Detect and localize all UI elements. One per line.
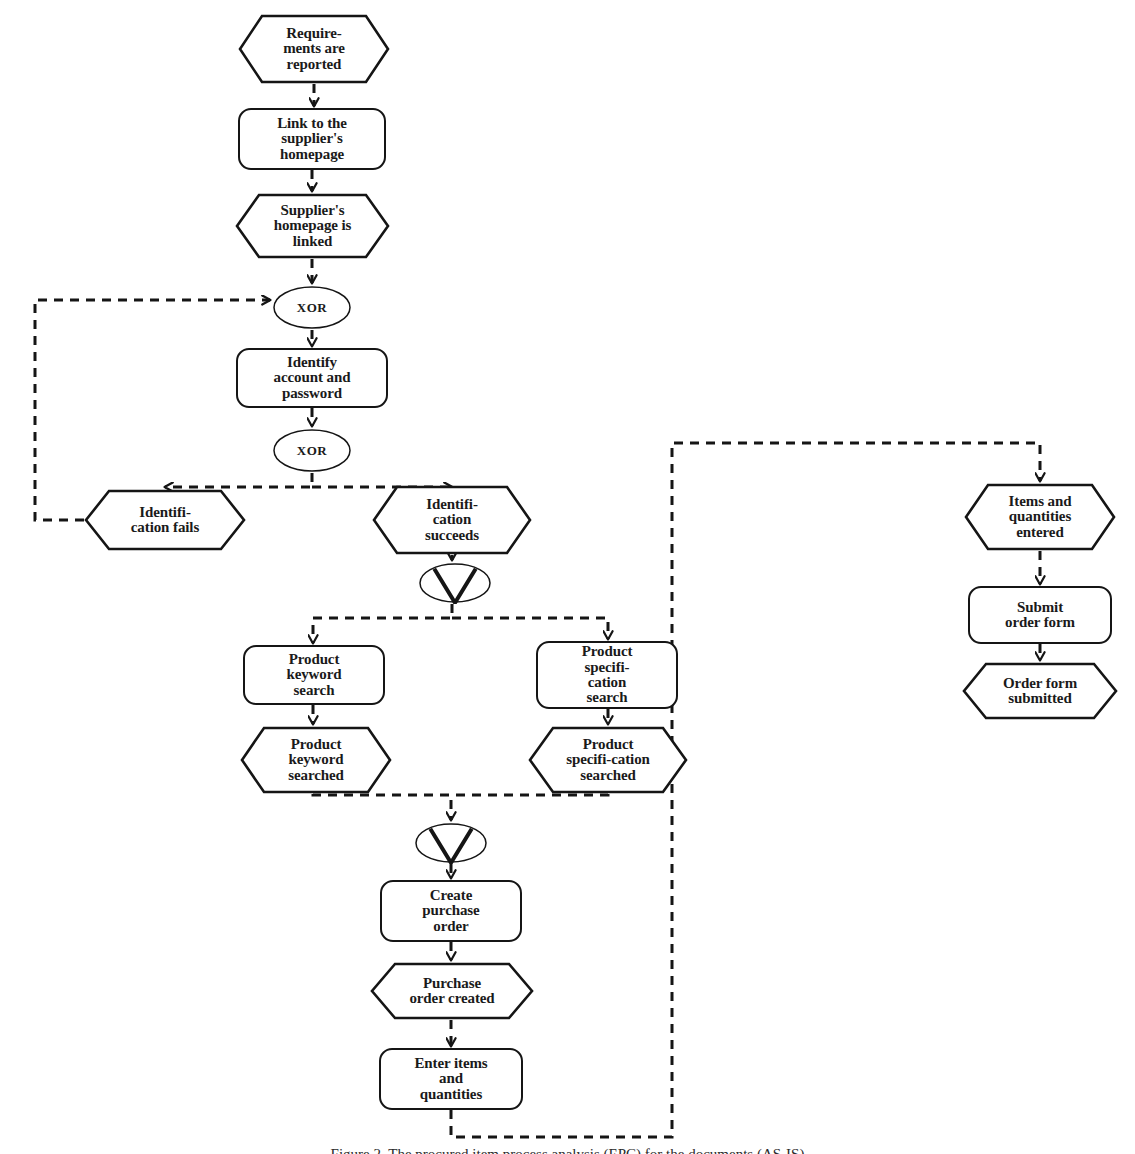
node-label: Product specifi- cation search [578,644,637,706]
diagram-canvas: Require- ments are reportedLink to the s… [0,0,1135,1154]
event-node-purchase_order_created[interactable]: Purchase order created [370,962,534,1020]
event-node-supplier_homepage_linked[interactable]: Supplier's homepage is linked [235,193,390,259]
function-node-product_keyword_search[interactable]: Product keyword search [243,645,385,705]
event-node-identification_fails[interactable]: Identifi- cation fails [84,489,246,551]
node-label: XOR [293,301,332,314]
node-label: Create purchase order [418,888,483,934]
node-label: Enter items and quantities [410,1056,491,1102]
edge-or_split-to-product_keyword_search [313,604,452,643]
connector-node-xor_2[interactable]: XOR [272,428,352,473]
function-node-product_specification_search[interactable]: Product specifi- cation search [536,641,678,709]
node-label: Supplier's homepage is linked [270,203,356,249]
node-label: Identifi- cation fails [127,505,203,536]
event-node-items_quantities_entered[interactable]: Items and quantities entered [964,483,1116,551]
figure-caption: Figure 2. The procured item process anal… [0,1146,1135,1154]
node-label: Product specifi-cation searched [562,737,654,783]
node-label: Order form submitted [999,676,1081,707]
node-label: Require- ments are reported [279,26,349,72]
node-label: Product keyword searched [284,737,348,783]
node-label: XOR [293,444,332,457]
node-label: Product keyword search [282,652,345,698]
node-label: Identifi- cation succeeds [421,497,483,543]
node-label: Items and quantities entered [1005,494,1076,540]
event-node-product_keyword_searched[interactable]: Product keyword searched [240,726,392,794]
function-node-enter_items_quantities[interactable]: Enter items and quantities [379,1048,523,1110]
edge-product_specification_searched-to-or_join [451,794,608,795]
function-node-create_purchase_order[interactable]: Create purchase order [380,880,522,942]
connector-node-or_join[interactable] [414,822,488,864]
function-node-identify_account_password[interactable]: Identify account and password [236,348,388,408]
edge-xor_2-to-identification_fails [165,473,312,487]
edge-layer [0,0,1135,1154]
edge-identification_fails-to-xor_1 [35,300,270,520]
ellipse-shape [418,562,492,604]
node-label: Identify account and password [270,355,355,401]
edge-product_keyword_searched-to-or_join [313,794,451,820]
function-node-submit_order_form[interactable]: Submit order form [968,586,1112,644]
connector-node-xor_1[interactable]: XOR [272,285,352,330]
event-node-requirements_reported[interactable]: Require- ments are reported [238,14,390,84]
ellipse-shape [414,822,488,864]
node-label: Submit order form [1001,600,1079,631]
edge-or_split-to-product_specification_search [452,618,608,639]
function-node-link_supplier_homepage[interactable]: Link to the supplier's homepage [238,108,386,170]
node-label: Purchase order created [405,976,498,1007]
node-label: Link to the supplier's homepage [273,116,351,162]
event-node-order_form_submitted[interactable]: Order form submitted [962,662,1118,720]
event-node-identification_succeeds[interactable]: Identifi- cation succeeds [372,485,532,555]
event-node-product_specification_searched[interactable]: Product specifi-cation searched [528,726,688,794]
connector-node-or_split[interactable] [418,562,492,604]
